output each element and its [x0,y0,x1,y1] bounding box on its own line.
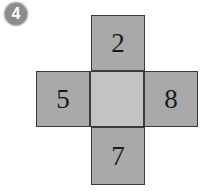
net-cell-bottom: 7 [91,127,145,185]
net-cell-right: 8 [144,71,198,127]
net-cell-left: 5 [36,71,90,127]
question-number-badge: 4 [5,3,27,25]
net-cell-center [90,71,144,127]
net-cell-top: 2 [91,15,145,71]
